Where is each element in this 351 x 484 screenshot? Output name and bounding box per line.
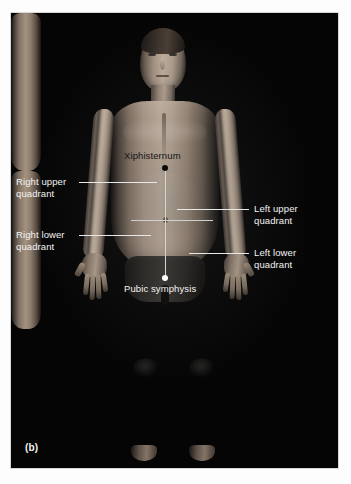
xiphisternum-marker <box>162 165 168 171</box>
nose <box>160 58 165 70</box>
finger-right-2 <box>230 275 236 299</box>
label-right-lower-quadrant: Right lower quadrant <box>16 229 65 252</box>
hand-left <box>77 253 111 303</box>
leg-left <box>11 13 41 171</box>
foot-left <box>131 445 157 461</box>
eye-right <box>169 53 177 56</box>
finger-left-4 <box>101 273 109 293</box>
label-pubic-symphysis: Pubic symphysis <box>124 283 196 295</box>
label-left-lower-quadrant: Left lower quadrant <box>254 247 296 270</box>
finger-right-4 <box>241 274 248 295</box>
finger-left-2 <box>90 275 96 300</box>
label-right-upper-quadrant: Right upper quadrant <box>16 176 66 199</box>
foot-right <box>189 445 215 461</box>
leader-left-lower-quadrant <box>189 253 249 254</box>
photo-panel: Xiphisternum Pubic symphysis Right upper… <box>11 13 338 468</box>
label-left-upper-quadrant: Left upper quadrant <box>254 203 298 226</box>
leader-left-upper-quadrant <box>177 209 249 210</box>
knee-right <box>189 358 215 378</box>
mouth <box>156 75 169 77</box>
label-xiphisternum: Xiphisternum <box>124 150 181 162</box>
knee-left <box>133 358 159 378</box>
anatomy-figure: Xiphisternum Pubic symphysis Right upper… <box>0 0 351 484</box>
hair <box>141 28 185 54</box>
arm-right <box>214 108 247 259</box>
hand-right <box>219 253 253 303</box>
eye-left <box>148 53 156 56</box>
pubic-symphysis-marker <box>162 275 168 281</box>
leader-right-upper-quadrant <box>79 182 157 183</box>
transumbilical-horizontal <box>131 220 213 221</box>
panel-caption: (b) <box>25 442 38 453</box>
leader-right-lower-quadrant <box>79 235 151 236</box>
midline-vertical <box>165 168 166 278</box>
